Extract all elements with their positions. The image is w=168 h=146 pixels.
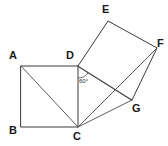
vertex-label-a: A	[9, 50, 17, 61]
vertex-label-d: D	[66, 50, 74, 61]
angle-label-60: 60°	[79, 78, 88, 84]
vertex-label-f: F	[157, 38, 164, 49]
geometry-figure: A B C D E F G 60°	[0, 0, 168, 146]
vertex-label-b: B	[9, 125, 17, 136]
vertex-label-e: E	[102, 4, 109, 15]
segment-cg-line	[78, 100, 132, 127]
square-defg-outline	[78, 21, 157, 100]
figure-canvas	[0, 0, 168, 146]
diagonal-ac-line	[21, 66, 78, 127]
vertex-label-c: C	[73, 131, 81, 142]
vertex-label-g: G	[132, 103, 141, 114]
segment-cf-line	[78, 48, 157, 127]
